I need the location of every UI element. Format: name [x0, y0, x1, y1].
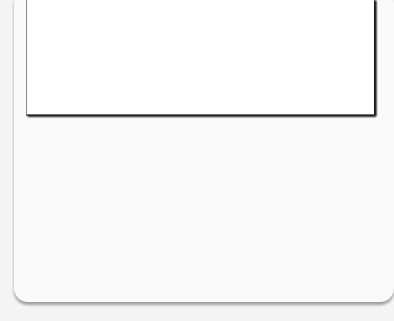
diagram-frame-full [26, 0, 374, 115]
